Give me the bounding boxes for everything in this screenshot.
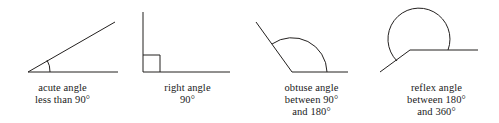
reflex-angle-label: reflex angle [374,82,499,94]
reflex-angle-caption: reflex angle between 180° and 360° [374,82,499,119]
figure-right-angle: right angle 90° [125,0,250,123]
figure-obtuse-angle: obtuse angle between 90° and 180° [249,0,374,123]
obtuse-angle-diagram [249,0,374,82]
acute-slanted-ray [28,22,115,72]
right-angle-range: 90° [125,94,250,106]
acute-angle-label: acute angle [0,82,125,94]
reflex-angle-range-upper: between 180° [374,94,499,106]
reflex-angle-arc [388,8,450,61]
figure-reflex-angle: reflex angle between 180° and 360° [374,0,499,123]
obtuse-slanted-ray [256,22,292,72]
reflex-slanted-ray [380,50,410,72]
obtuse-angle-range-upper: between 90° [249,94,374,106]
obtuse-angle-caption: obtuse angle between 90° and 180° [249,82,374,119]
acute-angle-caption: acute angle less than 90° [0,82,125,106]
figure-acute-angle: acute angle less than 90° [0,0,125,123]
right-angle-square-marker [143,55,160,72]
obtuse-angle-label: obtuse angle [249,82,374,94]
reflex-angle-range-lower: and 360° [374,106,499,118]
reflex-angle-diagram [374,0,499,82]
acute-angle-diagram [0,0,125,82]
right-angle-label: right angle [125,82,250,94]
obtuse-angle-range-lower: and 180° [249,106,374,118]
acute-angle-range: less than 90° [0,94,125,106]
angle-types-figure: acute angle less than 90° right angle 90… [0,0,499,123]
right-angle-diagram [125,0,250,82]
right-angle-caption: right angle 90° [125,82,250,106]
acute-angle-arc [47,60,50,72]
